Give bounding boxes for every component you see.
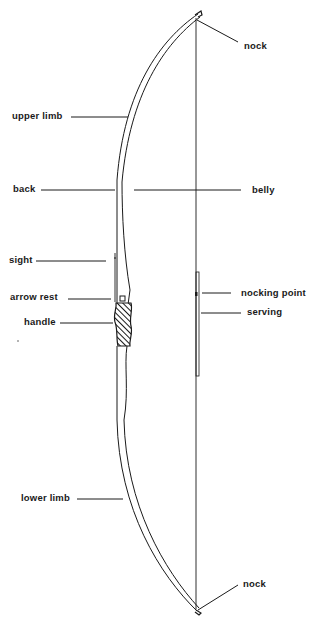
- upper-limb-belly-line: [122, 17, 200, 312]
- label-handle: handle: [24, 316, 56, 327]
- label-belly: belly: [252, 184, 275, 195]
- lower-limb-back-line: [117, 346, 197, 611]
- handle-grip: [114, 303, 131, 346]
- label-sight: sight: [9, 254, 33, 265]
- top-nock-icon: [195, 11, 202, 17]
- leader-nock-top: [197, 20, 238, 42]
- label-back: back: [13, 183, 35, 194]
- leader-lines: [36, 20, 241, 610]
- stray-mark: [17, 340, 19, 342]
- label-lower-limb: lower limb: [21, 492, 70, 503]
- label-arrow-rest: arrow rest: [10, 291, 58, 302]
- arrow-rest-block: [120, 296, 125, 301]
- label-upper-limb: upper limb: [12, 110, 63, 121]
- leader-nock-bottom: [198, 585, 238, 610]
- label-nock-top: nock: [244, 40, 267, 51]
- label-nock-bottom: nock: [243, 578, 266, 589]
- nocking-point-mark: [195, 292, 198, 296]
- lower-limb-belly-line: [124, 346, 199, 608]
- bottom-nock-icon: [195, 610, 201, 615]
- label-serving: serving: [247, 306, 282, 317]
- upper-limb-back-line: [117, 14, 198, 312]
- label-nocking-point: nocking point: [241, 287, 306, 298]
